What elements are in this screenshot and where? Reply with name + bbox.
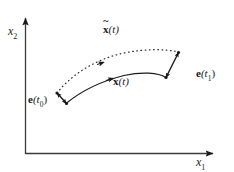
- perturbed-curve-label-arg: (t): [109, 23, 119, 35]
- initial-error-vector-label: e(t0): [28, 94, 47, 108]
- nominal-end-point: [164, 76, 167, 79]
- y-axis-label-subscript: 2: [13, 32, 17, 41]
- initial-error-vector: [57, 93, 67, 104]
- y-axis-label: x2: [8, 25, 17, 40]
- figure-container: x2 x1 ~x(t) x(t) e(t0) e(t1): [0, 0, 234, 172]
- x-axis-label-subscript: 1: [201, 163, 205, 172]
- initial-error-label-subscript: 0: [40, 100, 44, 109]
- final-error-vector: [166, 53, 179, 78]
- final-error-vector-label: e(t1): [196, 68, 215, 82]
- tilde-accent-icon: ~: [103, 16, 109, 26]
- final-error-label-subscript: 1: [208, 74, 212, 83]
- initial-error-label-arg-open: (t: [33, 93, 40, 105]
- final-error-label-arg-close: ): [211, 67, 215, 79]
- nominal-start-point: [65, 102, 68, 105]
- initial-error-label-arg-close: ): [43, 93, 47, 105]
- perturbed-direction-arrow: [97, 62, 104, 64]
- perturbed-end-point: [177, 51, 180, 54]
- perturbed-curve-label: ~x(t): [103, 24, 119, 35]
- nominal-curve-label: x(t): [113, 76, 129, 87]
- perturbed-start-point: [55, 91, 58, 94]
- nominal-curve-label-arg: (t): [119, 75, 129, 87]
- x-axis-label: x1: [196, 156, 205, 171]
- final-error-label-arg-open: (t: [201, 67, 208, 79]
- perturbed-curve-label-var-wrap: ~x: [103, 24, 109, 35]
